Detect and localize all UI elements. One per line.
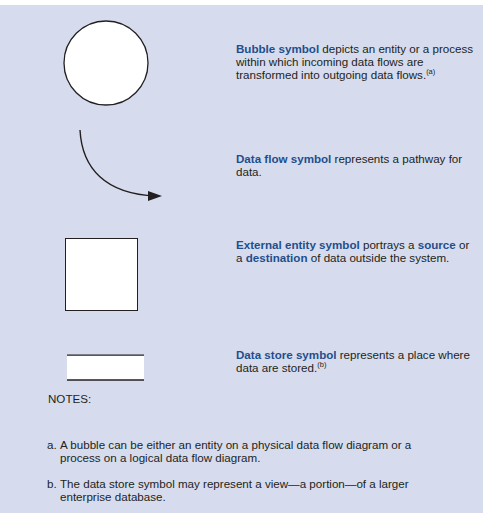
data-flow-symbol-keyword: Data flow symbol xyxy=(236,152,331,165)
data-store-symbol-description: Data store symbol represents a place whe… xyxy=(236,348,476,374)
destination-keyword: destination xyxy=(246,251,308,264)
footnote-ref-a: (a) xyxy=(426,67,435,76)
data-flow-arrow-icon xyxy=(70,128,170,204)
source-keyword: source xyxy=(418,238,456,251)
footnote-ref-b: (b) xyxy=(317,360,326,369)
note-a: a.A bubble can be either an entity on a … xyxy=(47,438,447,464)
bubble-symbol-description: Bubble symbol depicts an entity or a pro… xyxy=(236,42,476,81)
note-text: The data store symbol may represent a vi… xyxy=(60,477,440,503)
data-flow-symbol-description: Data flow symbol represents a pathway fo… xyxy=(236,152,476,178)
data-store-symbol-icon xyxy=(66,354,146,382)
note-label: a. xyxy=(47,438,60,451)
note-text: A bubble can be either an entity on a ph… xyxy=(60,438,440,464)
bubble-symbol-keyword: Bubble symbol xyxy=(236,42,319,55)
external-entity-symbol-keyword: External entity symbol xyxy=(236,238,360,251)
note-b: b.The data store symbol may represent a … xyxy=(47,477,447,503)
note-label: b. xyxy=(47,477,60,490)
bubble-symbol-icon xyxy=(62,20,150,106)
external-entity-symbol-description: External entity symbol portrays a source… xyxy=(236,238,476,264)
notes-heading: NOTES: xyxy=(48,392,91,405)
external-entity-square-icon xyxy=(65,238,138,311)
